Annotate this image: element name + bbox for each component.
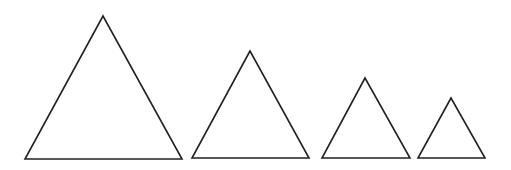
triangle-largest — [25, 16, 182, 159]
triangle-large — [192, 51, 309, 158]
triangle-small — [418, 98, 485, 158]
triangle-medium — [322, 78, 410, 158]
triangles-diagram — [0, 0, 511, 170]
